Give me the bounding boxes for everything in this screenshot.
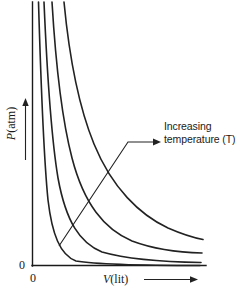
increasing-temperature-annotation: Increasing temperature (T) — [164, 120, 246, 145]
increasing-temperature-arrowhead — [153, 139, 161, 146]
annotation-line-1: Increasing — [164, 120, 246, 133]
pv-isotherm-figure: P(atm) V(lit) 0 0 Increasing temperature… — [0, 0, 246, 293]
x-axis-direction-arrowhead — [190, 276, 198, 283]
y-axis-unit: (atm) — [4, 107, 18, 133]
increasing-temperature-pointer-line — [59, 142, 156, 246]
x-axis-origin-label: 0 — [30, 271, 36, 286]
x-axis-title: V(lit) — [103, 272, 128, 287]
y-axis-direction-arrowhead — [22, 98, 28, 106]
x-axis-unit: (lit) — [110, 272, 128, 286]
y-axis-title: P(atm) — [4, 100, 19, 148]
annotation-line-2: temperature (T) — [164, 133, 246, 146]
y-axis-origin-label: 0 — [19, 258, 25, 273]
y-axis-symbol: P — [4, 133, 18, 140]
plot-canvas — [0, 0, 246, 293]
